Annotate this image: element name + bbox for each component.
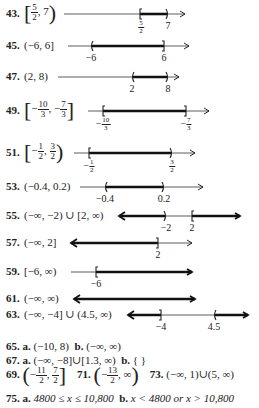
tick-label: −73 — [180, 117, 191, 132]
answer-71: 71. (−132, ∞) — [77, 368, 141, 380]
answer-63: 63.(−∞, −4] ∪ (4.5, ∞)−44.5 — [0, 306, 259, 340]
part-a-label: a. — [23, 392, 31, 404]
tick-label: −6 — [86, 52, 97, 63]
tick-label: 6 — [162, 52, 167, 63]
tick-label: 2 — [156, 249, 161, 260]
answers-69-71-73: 69. (−112, 72] 71. (−132, ∞) 73. (−∞, 1)… — [6, 366, 234, 392]
part-a-value: (−10, 8) — [34, 340, 70, 352]
denominator: 2 — [107, 376, 118, 385]
answer-73: 73. (−∞, 1)∪(5, ∞) — [150, 368, 234, 380]
answer-43: 43.[52, 7)527 — [0, 0, 259, 34]
tick-label: −103 — [96, 117, 111, 132]
number-line — [0, 0, 259, 34]
answer-number: 71. — [77, 368, 91, 380]
number-line — [0, 36, 259, 70]
answer-value: (−∞, 1)∪(5, ∞) — [166, 368, 234, 380]
tick-label: 0.2 — [158, 193, 171, 204]
tick-label: 8 — [166, 83, 171, 94]
answer-65: 65. a. (−10, 8) b. (−∞, ∞) — [6, 340, 121, 352]
denominator: 2 — [36, 376, 47, 385]
tick-label: −0.4 — [96, 193, 114, 204]
tick-label: 4.5 — [208, 321, 221, 332]
answer-number: 73. — [150, 368, 164, 380]
part-a-value: (−∞, −8]∪[1.3, ∞) — [34, 354, 116, 366]
tick-label: −2 — [161, 222, 172, 233]
tick-label: 2 — [130, 83, 135, 94]
tick-label: −4 — [156, 321, 167, 332]
answer-49: 49.[−103, −73]−103−73 — [0, 95, 259, 129]
tick-label: 52 — [138, 20, 144, 35]
part-b-label: b. — [119, 392, 128, 404]
part-a-value: 4800 ≤ x ≤ 10,800 — [34, 392, 114, 404]
part-b-label: b. — [121, 354, 130, 366]
answer-45: 45.(−6, 6]−66 — [0, 36, 259, 70]
number-line — [0, 95, 259, 129]
tick-label: 7 — [166, 20, 171, 31]
answer-69: 69. (−112, 72] — [6, 368, 69, 380]
answer-number: 65. — [6, 340, 20, 352]
answer-51: 51.[−12, 32)−1232 — [0, 140, 259, 174]
part-b-label: b. — [75, 340, 84, 352]
answer-75: 75. a. 4800 ≤ x ≤ 10,800 b. x < 4800 or … — [6, 392, 234, 404]
tick-label: 2 — [190, 222, 195, 233]
tick-label: −12 — [83, 159, 94, 174]
answer-number: 67. — [6, 354, 20, 366]
tick-label: 32 — [169, 159, 175, 174]
part-b-value: (−∞, ∞) — [86, 340, 121, 352]
answer-number: 75. — [6, 392, 20, 404]
part-b-value: x < 4800 or x > 10,800 — [131, 392, 234, 404]
answer-number: 69. — [6, 368, 20, 380]
part-a-label: a. — [23, 340, 31, 352]
tick-label: −6 — [91, 278, 102, 289]
number-line — [0, 140, 259, 174]
